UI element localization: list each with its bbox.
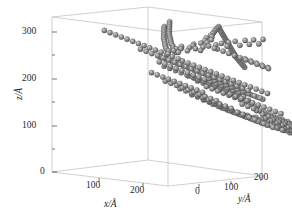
particle <box>243 38 248 43</box>
particle <box>273 109 278 114</box>
particle <box>209 37 214 42</box>
particle <box>270 125 275 130</box>
particle <box>204 84 209 89</box>
particle <box>280 127 285 132</box>
particle <box>185 60 190 65</box>
particle <box>244 98 249 103</box>
z-ticklabel-300: 300 <box>22 26 36 36</box>
particle <box>221 49 226 54</box>
box-edge-top-front-left <box>52 17 168 32</box>
particle <box>189 85 194 90</box>
box-edge-floor-front-right <box>168 176 262 186</box>
particle <box>191 63 196 68</box>
particle <box>212 46 217 51</box>
particle <box>258 95 263 100</box>
particle <box>250 100 255 105</box>
particle <box>196 75 201 80</box>
box-edge-top-back-right <box>148 7 262 22</box>
y-ticklabel-0: 0 <box>195 186 200 196</box>
y-ticklabel-200: 200 <box>254 172 268 182</box>
particle-cluster <box>102 19 292 142</box>
particle <box>266 66 271 71</box>
particle <box>247 115 252 120</box>
particle <box>220 73 225 78</box>
particle <box>267 107 272 112</box>
particle <box>200 90 205 95</box>
particle <box>238 55 243 60</box>
particle <box>157 59 162 64</box>
particle <box>245 104 250 109</box>
particle <box>251 106 256 111</box>
particle <box>130 39 135 44</box>
particle <box>136 41 141 46</box>
y-ticklabel-100: 100 <box>224 182 238 192</box>
particle <box>162 61 167 66</box>
particle <box>233 94 238 99</box>
particle <box>198 48 203 53</box>
particle <box>185 70 190 75</box>
particle <box>165 51 170 56</box>
particle <box>113 32 118 37</box>
particle <box>261 121 266 126</box>
particle <box>208 96 213 101</box>
box-edge-floor-back-right <box>148 160 262 176</box>
particle <box>153 47 158 52</box>
particle <box>176 50 181 55</box>
particle <box>255 62 260 67</box>
particle <box>171 48 176 53</box>
x-ticklabel-200: 200 <box>130 185 144 195</box>
figure-3d-scatter: 300 200 100 0 100 200 0 100 200 z/Å x/Å … <box>0 0 292 220</box>
particle <box>172 79 177 84</box>
particle <box>219 41 224 46</box>
particle <box>168 64 173 69</box>
particle <box>227 92 232 97</box>
particle <box>235 110 240 115</box>
particle <box>240 112 245 117</box>
particle <box>252 117 257 122</box>
z-ticklabel-0: 0 <box>40 166 45 176</box>
particle <box>160 74 165 79</box>
box-edge-floor-back-left <box>52 160 148 172</box>
particle <box>256 102 261 107</box>
particle <box>174 66 179 71</box>
particle <box>242 82 247 87</box>
x-ticklabel-100: 100 <box>86 180 100 190</box>
particle <box>265 91 270 96</box>
particle <box>226 51 231 56</box>
particle <box>225 44 230 49</box>
particle <box>239 96 244 101</box>
particle <box>203 67 208 72</box>
particle <box>107 30 112 35</box>
particle <box>233 39 238 44</box>
particle <box>259 89 264 94</box>
particle <box>102 28 107 33</box>
particle <box>159 50 164 55</box>
particle <box>214 71 219 76</box>
particle <box>254 87 259 92</box>
particle <box>248 84 253 89</box>
particle <box>252 93 257 98</box>
particle <box>183 83 188 88</box>
particle <box>194 87 199 92</box>
particle <box>260 64 265 69</box>
particle <box>247 42 252 47</box>
particle <box>237 43 242 48</box>
particle <box>185 48 190 53</box>
particle <box>223 104 228 109</box>
particle <box>225 76 230 81</box>
particle <box>237 80 242 85</box>
particle <box>166 77 171 82</box>
particle <box>256 41 261 46</box>
particle <box>176 56 181 61</box>
z-ticklabel-200: 200 <box>22 73 36 83</box>
particle <box>249 59 254 64</box>
plot-canvas <box>0 0 292 220</box>
particle <box>278 111 283 116</box>
particle <box>261 37 266 42</box>
particle <box>177 81 182 86</box>
z-axis-title: z/Å <box>14 88 24 100</box>
particle <box>240 102 245 107</box>
y-axis-title: y/Å <box>238 194 251 204</box>
particle <box>208 69 213 74</box>
particle <box>179 68 184 73</box>
